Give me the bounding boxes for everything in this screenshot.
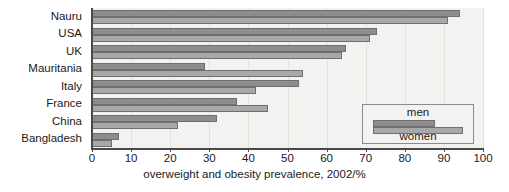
bar-men-france xyxy=(92,98,237,105)
y-axis-label-usa: USA xyxy=(0,27,86,39)
y-axis-label-bangladesh: Bangladesh xyxy=(0,132,86,144)
bar-row xyxy=(92,8,483,26)
y-axis-label-uk: UK xyxy=(0,45,86,57)
chart-root: NauruUSAUKMauritaniaItalyFranceChinaBang… xyxy=(0,0,509,192)
x-tick-0: 0 xyxy=(89,152,95,164)
x-tick-80: 80 xyxy=(398,152,411,164)
bar-men-uk xyxy=(92,45,346,52)
x-tick-90: 90 xyxy=(437,152,450,164)
y-axis-label-china: China xyxy=(0,115,86,127)
legend: men women xyxy=(362,104,474,144)
bar-row xyxy=(92,43,483,61)
bar-men-mauritania xyxy=(92,63,205,70)
bar-men-italy xyxy=(92,80,299,87)
x-tick-70: 70 xyxy=(359,152,372,164)
bar-men-bangladesh xyxy=(92,133,119,140)
bar-women-france xyxy=(92,105,268,112)
y-axis-label-france: France xyxy=(0,97,86,109)
bar-men-nauru xyxy=(92,10,460,17)
x-tick-50: 50 xyxy=(281,152,294,164)
x-axis-title: overweight and obesity prevalence, 2002/… xyxy=(0,168,509,180)
bar-women-mauritania xyxy=(92,70,303,77)
legend-swatch-men xyxy=(373,120,435,127)
bar-women-nauru xyxy=(92,17,448,24)
bar-women-italy xyxy=(92,87,256,94)
x-tick-10: 10 xyxy=(125,152,138,164)
bar-women-china xyxy=(92,122,178,129)
bar-men-china xyxy=(92,115,217,122)
x-axis-tick-labels: 0102030405060708090100 xyxy=(0,152,509,168)
bar-row xyxy=(92,26,483,44)
x-tick-30: 30 xyxy=(203,152,216,164)
legend-label-women: women xyxy=(363,130,473,142)
bar-men-usa xyxy=(92,28,377,35)
x-tick-40: 40 xyxy=(242,152,255,164)
y-axis-label-italy: Italy xyxy=(0,80,86,92)
bar-women-bangladesh xyxy=(92,140,112,147)
bar-row xyxy=(92,61,483,79)
y-axis-line xyxy=(91,8,93,150)
x-tick-20: 20 xyxy=(164,152,177,164)
x-tick-100: 100 xyxy=(473,152,492,164)
y-axis-label-mauritania: Mauritania xyxy=(0,62,86,74)
legend-label-men: men xyxy=(363,106,473,118)
bar-women-uk xyxy=(92,52,342,59)
x-tick-60: 60 xyxy=(320,152,333,164)
bar-row xyxy=(92,78,483,96)
gridline xyxy=(483,8,484,148)
bar-women-usa xyxy=(92,35,370,42)
y-axis-label-nauru: Nauru xyxy=(0,10,86,22)
